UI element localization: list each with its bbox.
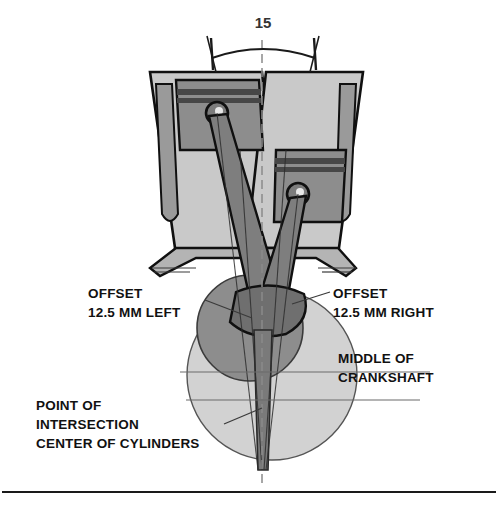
angle-value-label: 15: [255, 14, 272, 31]
annotation-line: 12.5 MM LEFT: [88, 305, 181, 320]
annotation-line: CENTER OF CYLINDERS: [36, 436, 200, 451]
annotation-line: INTERSECTION: [36, 417, 139, 432]
diagram-canvas: 15 OFFSET 12.5 MM LEFT OFFSET 12.5 MM RI…: [0, 0, 498, 506]
annotation-line: MIDDLE OF: [338, 351, 414, 366]
annotation-line: CRANKSHAFT: [338, 370, 434, 385]
v-engine-cylinder-offset-diagram: 15 OFFSET 12.5 MM LEFT OFFSET 12.5 MM RI…: [0, 0, 498, 506]
annotation-line: OFFSET: [333, 286, 388, 301]
annotation-line: 12.5 MM RIGHT: [333, 305, 434, 320]
right-piston-ring-2: [275, 167, 345, 172]
right-wrist-pin-bore: [296, 188, 304, 196]
left-piston-ring-1: [177, 89, 261, 95]
annotation-line: OFFSET: [88, 286, 143, 301]
annotation-line: POINT OF: [36, 398, 101, 413]
